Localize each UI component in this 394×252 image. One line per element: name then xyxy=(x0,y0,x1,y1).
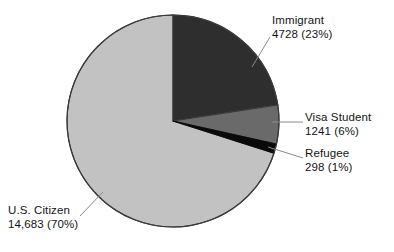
slice-label-refugee: Refugee 298 (1%) xyxy=(305,146,352,174)
slice-label-refugee-value: 298 (1%) xyxy=(305,160,352,174)
slice-label-visa-student: Visa Student 1241 (6%) xyxy=(305,110,371,138)
slice-label-refugee-name: Refugee xyxy=(305,146,352,160)
slice-label-us-citizen: U.S. Citizen 14,683 (70%) xyxy=(8,203,78,231)
slice-label-us-citizen-name: U.S. Citizen xyxy=(8,203,78,217)
leader-line-us-citizen xyxy=(80,192,103,216)
pie-chart-figure: Immigrant 4728 (23%) Visa Student 1241 (… xyxy=(0,0,394,252)
pie-slice-immigrant[interactable] xyxy=(173,15,278,121)
slice-label-immigrant-name: Immigrant xyxy=(272,13,332,27)
slice-label-visa-student-name: Visa Student xyxy=(305,110,371,124)
slice-label-visa-student-value: 1241 (6%) xyxy=(305,124,371,138)
slice-label-immigrant: Immigrant 4728 (23%) xyxy=(272,13,332,41)
slice-label-immigrant-value: 4728 (23%) xyxy=(272,27,332,41)
slice-label-us-citizen-value: 14,683 (70%) xyxy=(8,217,78,231)
